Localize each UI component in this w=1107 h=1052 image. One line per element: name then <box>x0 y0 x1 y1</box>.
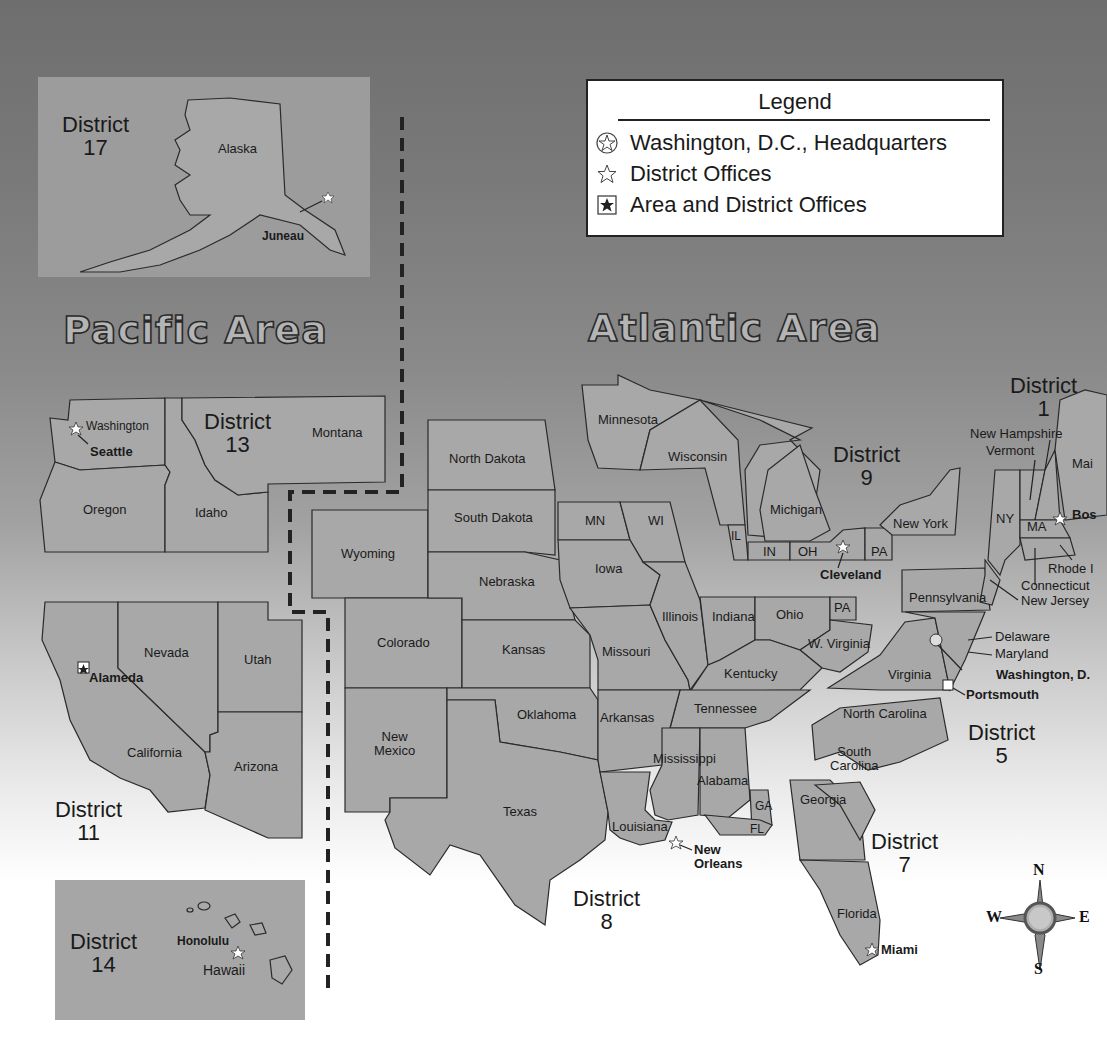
compass-east: E <box>1079 908 1090 926</box>
city-label-boston: Bos <box>1072 508 1097 522</box>
district-1-label: District1 <box>1010 374 1077 420</box>
state-label-fl-small: FL <box>750 823 764 836</box>
state-label-w-virginia: W. Virginia <box>808 637 870 651</box>
state-label-in: IN <box>763 545 776 559</box>
state-label-new-hampshire: New Hampshire <box>970 427 1062 441</box>
new-orleans-star-icon <box>669 836 683 849</box>
city-label-alameda: Alameda <box>89 671 143 685</box>
star-outline-icon <box>596 163 618 185</box>
legend-item-area-offices: Area and District Offices <box>588 189 1002 220</box>
compass-north: N <box>1033 861 1045 879</box>
state-label-colorado: Colorado <box>377 636 430 650</box>
legend-title: Legend <box>588 89 1002 115</box>
state-label-nebraska: Nebraska <box>479 575 535 589</box>
state-label-kentucky: Kentucky <box>724 667 777 681</box>
state-label-new-mexico: New Mexico <box>374 730 415 757</box>
state-arizona <box>205 712 302 838</box>
district-11-label: District11 <box>55 798 122 844</box>
state-label-wisconsin: Wisconsin <box>668 450 727 464</box>
state-label-maryland: Maryland <box>995 647 1048 661</box>
state-label-kansas: Kansas <box>502 643 545 657</box>
state-label-maine: Mai <box>1072 457 1093 471</box>
state-label-missouri: Missouri <box>602 645 650 659</box>
legend-label: Area and District Offices <box>630 192 867 218</box>
city-label-washington-dc: Washington, D. <box>996 668 1090 682</box>
state-label-wi: WI <box>648 514 664 528</box>
state-label-pennsylvania: Pennsylvania <box>909 591 986 605</box>
state-label-louisiana: Louisiana <box>612 820 668 834</box>
state-label-illinois: Illinois <box>662 610 698 624</box>
legend-box: Legend Washington, D.C., Headquarters Di… <box>586 79 1004 237</box>
compass-rose <box>1000 880 1075 970</box>
state-label-oh: OH <box>798 545 818 559</box>
state-label-nevada: Nevada <box>144 646 189 660</box>
state-label-georgia: Georgia <box>800 793 846 807</box>
state-label-california: California <box>127 746 182 760</box>
state-label-ny: NY <box>996 512 1014 526</box>
state-label-rhode-island: Rhode I <box>1048 562 1094 576</box>
state-label-ohio: Ohio <box>776 608 803 622</box>
state-label-oklahoma: Oklahoma <box>517 708 576 722</box>
atlantic-area-title: Atlantic Area <box>588 306 881 350</box>
state-label-north-carolina: North Carolina <box>843 707 927 721</box>
state-label-arkansas: Arkansas <box>600 711 654 725</box>
state-label-il: IL <box>731 530 741 543</box>
state-label-new-jersey: New Jersey <box>1021 594 1089 608</box>
state-label-ma: MA <box>1027 520 1047 534</box>
state-label-pa-small: PA <box>834 601 850 615</box>
state-label-washington: Washington <box>86 420 149 433</box>
district-17-label: District17 <box>62 113 129 159</box>
state-label-hawaii: Hawaii <box>203 963 245 978</box>
district-5-label: District5 <box>968 721 1035 767</box>
state-label-alabama: Alabama <box>697 774 748 788</box>
legend-label: District Offices <box>630 161 771 187</box>
state-label-pa-strip: PA <box>871 545 887 559</box>
legend-item-headquarters: Washington, D.C., Headquarters <box>588 127 1002 158</box>
compass-west: W <box>986 908 1002 926</box>
state-label-idaho: Idaho <box>195 506 228 520</box>
legend-label: Washington, D.C., Headquarters <box>630 130 947 156</box>
state-label-arizona: Arizona <box>234 760 278 774</box>
state-label-south-carolina: South Carolina <box>830 745 878 772</box>
district-7-label: District7 <box>871 830 938 876</box>
state-ct-ri <box>1020 538 1075 560</box>
state-label-vermont: Vermont <box>986 444 1034 458</box>
district-14-label: District14 <box>70 930 137 976</box>
state-label-tennessee: Tennessee <box>694 702 757 716</box>
state-washington <box>50 398 165 470</box>
district-8-label: District8 <box>573 887 640 933</box>
state-label-mississippi: Mississippi <box>653 752 716 766</box>
state-label-indiana: Indiana <box>712 610 755 624</box>
city-label-juneau: Juneau <box>262 230 304 243</box>
coast-guard-district-map: Legend Washington, D.C., Headquarters Di… <box>0 0 1107 1052</box>
state-label-texas: Texas <box>503 805 537 819</box>
city-label-honolulu: Honolulu <box>177 935 229 948</box>
state-label-montana: Montana <box>312 426 363 440</box>
state-label-connecticut: Connecticut <box>1021 579 1090 593</box>
state-label-oregon: Oregon <box>83 503 126 517</box>
state-label-delaware: Delaware <box>995 630 1050 644</box>
city-label-miami: Miami <box>881 943 918 957</box>
state-label-alaska: Alaska <box>218 142 257 156</box>
state-label-south-dakota: South Dakota <box>454 511 533 525</box>
portsmouth-boxed-star-icon <box>943 680 953 690</box>
city-label-seattle: Seattle <box>90 445 133 459</box>
legend-divider <box>618 119 990 121</box>
state-label-florida: Florida <box>837 907 877 921</box>
state-label-virginia: Virginia <box>888 668 931 682</box>
state-label-minnesota: Minnesota <box>598 413 658 427</box>
state-label-north-dakota: North Dakota <box>449 452 526 466</box>
state-label-new-york: New York <box>893 517 948 531</box>
city-label-new-orleans: New Orleans <box>694 843 742 870</box>
circled-star-icon <box>596 132 618 154</box>
state-label-michigan: Michigan <box>770 503 822 517</box>
pacific-area-title: Pacific Area <box>63 308 328 352</box>
compass-south: S <box>1034 960 1043 978</box>
state-label-iowa: Iowa <box>595 562 622 576</box>
boxed-star-icon <box>596 194 618 216</box>
state-label-ga-small: GA <box>755 800 772 813</box>
city-label-portsmouth: Portsmouth <box>966 688 1039 702</box>
legend-item-district-offices: District Offices <box>588 158 1002 189</box>
washington-dc-hq-icon <box>930 634 942 646</box>
state-label-mn: MN <box>585 514 605 528</box>
